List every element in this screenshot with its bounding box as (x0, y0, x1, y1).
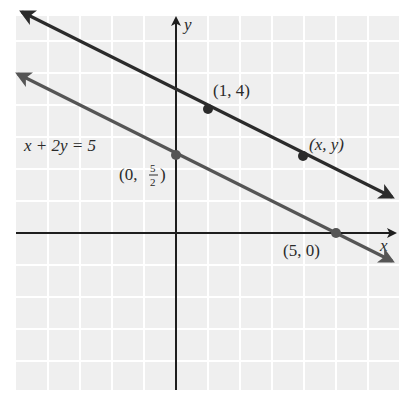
fraction-denominator: 2 (150, 176, 156, 188)
label-equation: x + 2y = 5 (23, 136, 96, 155)
label-point-5-0: (5, 0) (283, 241, 320, 260)
point-x-y (298, 151, 308, 161)
fraction-numerator: 5 (150, 162, 156, 174)
x-axis-label: x (379, 236, 388, 255)
point-0-five-halves (171, 150, 181, 160)
grid (16, 16, 399, 390)
label-point-0-prefix: (0, (119, 165, 137, 184)
label-point-x-y: (x, y) (309, 135, 344, 154)
y-axis-label: y (182, 15, 192, 34)
point-5-0 (331, 228, 341, 238)
point-1-4 (203, 104, 213, 114)
coordinate-plane-figure: x y (1, 4) (x, y) x + 2y = 5 (0, 5 2 ) (… (0, 0, 407, 407)
label-point-0-suffix: ) (160, 165, 166, 184)
label-point-1-4: (1, 4) (213, 81, 250, 100)
